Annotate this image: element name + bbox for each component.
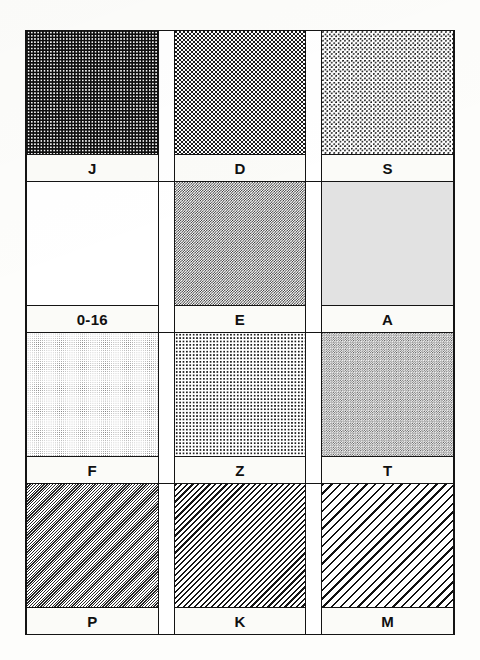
pattern-swatch-j — [27, 31, 158, 155]
pattern-cell-e[interactable]: E — [174, 182, 307, 332]
pattern-swatch-e — [175, 182, 306, 306]
pattern-label-k: K — [234, 614, 245, 629]
pattern-cell-t[interactable]: T — [321, 333, 454, 483]
pattern-label-d: D — [234, 161, 245, 176]
pattern-label-band-0-16: 0-16 — [27, 306, 158, 332]
pattern-swatch-0-16 — [27, 182, 158, 306]
column-gutter-4 — [306, 182, 321, 332]
pattern-label-band-e: E — [175, 306, 306, 332]
column-gutter-2 — [306, 31, 321, 181]
column-gutter-3 — [159, 182, 174, 332]
pattern-swatch-a — [322, 182, 453, 306]
pattern-row-2: 0-16 E A — [26, 182, 454, 333]
pattern-label-j: J — [88, 161, 97, 176]
pattern-cell-s[interactable]: S — [321, 31, 454, 181]
pattern-cell-z[interactable]: Z — [174, 333, 307, 483]
pattern-label-band-k: K — [175, 608, 306, 634]
pattern-label-s: S — [383, 161, 393, 176]
pattern-swatch-m — [322, 484, 453, 608]
column-gutter-8 — [306, 484, 321, 634]
pattern-label-e: E — [235, 312, 245, 327]
pattern-chart-frame: J D S 0-16 — [25, 30, 455, 635]
pattern-cell-a[interactable]: A — [321, 182, 454, 332]
pattern-swatch-z — [175, 333, 306, 457]
page-root: J D S 0-16 — [0, 0, 480, 660]
pattern-label-z: Z — [235, 463, 244, 478]
pattern-cell-f[interactable]: F — [26, 333, 159, 483]
column-gutter-5 — [159, 333, 174, 483]
pattern-row-3: F Z T — [26, 333, 454, 484]
column-gutter-6 — [306, 333, 321, 483]
pattern-label-band-m: M — [322, 608, 453, 634]
pattern-cell-m[interactable]: M — [321, 484, 454, 634]
pattern-label-a: A — [382, 312, 393, 327]
pattern-cell-d[interactable]: D — [174, 31, 307, 181]
pattern-swatch-t — [322, 333, 453, 457]
pattern-swatch-p — [27, 484, 158, 608]
pattern-label-band-a: A — [322, 306, 453, 332]
pattern-label-band-d: D — [175, 155, 306, 181]
pattern-cell-j[interactable]: J — [26, 31, 159, 181]
pattern-swatch-f — [27, 333, 158, 457]
pattern-label-0-16: 0-16 — [77, 312, 108, 327]
pattern-label-m: M — [381, 614, 394, 629]
pattern-label-band-j: J — [27, 155, 158, 181]
pattern-label-band-p: P — [27, 608, 158, 634]
column-gutter-7 — [159, 484, 174, 634]
pattern-label-band-f: F — [27, 457, 158, 483]
pattern-label-p: P — [87, 614, 97, 629]
pattern-row-4: P K M — [26, 484, 454, 634]
pattern-swatch-d — [175, 31, 306, 155]
pattern-row-1: J D S — [26, 31, 454, 182]
pattern-cell-0-16[interactable]: 0-16 — [26, 182, 159, 332]
pattern-label-band-t: T — [322, 457, 453, 483]
pattern-cell-k[interactable]: K — [174, 484, 307, 634]
pattern-swatch-k — [175, 484, 306, 608]
pattern-label-band-s: S — [322, 155, 453, 181]
pattern-cell-p[interactable]: P — [26, 484, 159, 634]
pattern-label-f: F — [88, 463, 97, 478]
pattern-label-t: T — [383, 463, 392, 478]
pattern-label-band-z: Z — [175, 457, 306, 483]
column-gutter-1 — [159, 31, 174, 181]
pattern-swatch-s — [322, 31, 453, 155]
